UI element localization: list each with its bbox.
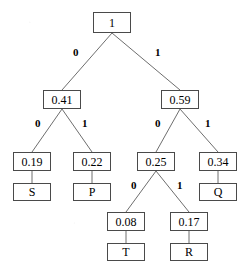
edge-bit-label-root-n041: 0	[73, 47, 79, 58]
node-label: 0.17	[179, 216, 200, 228]
tree-edge	[180, 109, 218, 152]
edge-bit-label-n041-n019: 0	[35, 118, 41, 129]
tree-node-n025[interactable]: 0.25	[137, 152, 175, 171]
node-label: 0.34	[208, 156, 229, 168]
edge-bit-label-n041-n022: 1	[82, 118, 88, 129]
node-label: 0.41	[52, 94, 73, 106]
node-label: T	[122, 246, 129, 258]
tree-leaf-node-leafQ[interactable]: Q	[199, 183, 237, 201]
node-label: 0.08	[116, 216, 137, 228]
edge-bit-label-n025-n008: 0	[131, 180, 137, 191]
tree-leaf-node-leafT[interactable]: T	[107, 243, 145, 261]
tree-edges-canvas	[0, 0, 248, 279]
tree-leaf-node-leafS[interactable]: S	[13, 183, 51, 201]
edge-bit-label-n025-n017: 1	[177, 180, 183, 191]
tree-node-n034[interactable]: 0.34	[199, 152, 237, 171]
tree-node-root[interactable]: 1	[93, 12, 131, 33]
node-label: 0.22	[82, 156, 103, 168]
node-label: P	[89, 186, 96, 198]
tree-node-n017[interactable]: 0.17	[170, 212, 208, 231]
tree-edge	[156, 109, 180, 152]
tree-leaf-node-leafR[interactable]: R	[170, 243, 208, 261]
tree-node-n059[interactable]: 0.59	[161, 90, 199, 109]
tree-node-n008[interactable]: 0.08	[107, 212, 145, 231]
node-label: 0.59	[170, 94, 191, 106]
tree-edge	[112, 33, 180, 90]
tree-edge	[126, 171, 156, 212]
node-label: 0.25	[146, 156, 167, 168]
node-label: S	[29, 186, 36, 198]
tree-leaf-node-leafP[interactable]: P	[73, 183, 111, 201]
tree-node-n041[interactable]: 0.41	[43, 90, 81, 109]
edge-bit-label-root-n059: 1	[155, 47, 161, 58]
tree-edge	[62, 109, 92, 152]
tree-node-n022[interactable]: 0.22	[73, 152, 111, 171]
node-label: R	[185, 246, 193, 258]
node-label: Q	[214, 186, 223, 198]
tree-edge	[156, 171, 189, 212]
edge-bit-label-n059-n034: 1	[205, 118, 211, 129]
tree-edge	[32, 109, 62, 152]
tree-edge	[62, 33, 112, 90]
edge-bit-label-n059-n025: 0	[155, 118, 161, 129]
node-label: 1	[109, 17, 115, 29]
tree-node-n019[interactable]: 0.19	[13, 152, 51, 171]
node-label: 0.19	[22, 156, 43, 168]
